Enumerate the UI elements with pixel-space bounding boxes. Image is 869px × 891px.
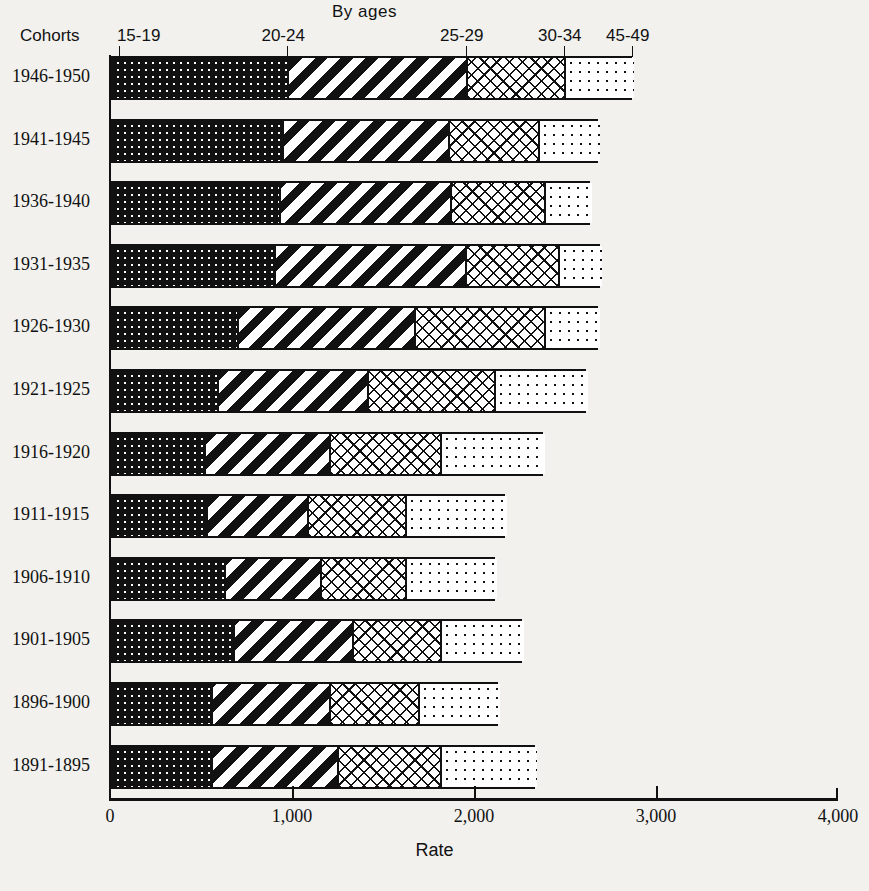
bar-segment-15-19[interactable] (112, 183, 281, 223)
bar-segment-30-34[interactable] (407, 496, 507, 536)
bar-row: 1911-1915 (0, 494, 869, 538)
cohort-label-1911-1915: 1911-1915 (12, 504, 89, 525)
x-tick-label-2000: 2,000 (454, 806, 495, 827)
x-tick-1000 (292, 786, 294, 799)
bar-segment-20-24[interactable] (276, 246, 467, 286)
bar-row: 1891-1895 (0, 745, 869, 789)
bar-segment-25-29[interactable] (467, 246, 560, 286)
bar-segment-15-19[interactable] (112, 559, 226, 599)
bar-segment-30-34[interactable] (442, 621, 524, 661)
bar-row: 1916-1920 (0, 432, 869, 476)
age-group-label-20-24: 20-24 (261, 26, 304, 46)
stacked-bar-1896-1900[interactable] (110, 682, 498, 726)
bar-segment-15-19[interactable] (112, 308, 239, 348)
bar-segment-15-19[interactable] (112, 246, 276, 286)
bar-segment-20-24[interactable] (208, 496, 309, 536)
bar-segment-25-29[interactable] (339, 747, 442, 787)
cohort-label-1946-1950: 1946-1950 (12, 66, 90, 87)
stacked-bar-1926-1930[interactable] (110, 306, 598, 350)
stacked-bar-1931-1935[interactable] (110, 244, 600, 288)
stacked-bar-1911-1915[interactable] (110, 494, 505, 538)
bar-segment-25-29[interactable] (369, 371, 496, 411)
bar-row: 1941-1945 (0, 119, 869, 163)
bar-row: 1896-1900 (0, 682, 869, 726)
stacked-bar-chart: By ages Cohorts 15-1920-2425-2930-3445-4… (0, 0, 869, 891)
bar-segment-20-24[interactable] (213, 684, 331, 724)
bar-segment-20-24[interactable] (284, 121, 450, 161)
x-axis-title: Rate (0, 840, 869, 861)
age-group-label-15-19: 15-19 (117, 26, 160, 46)
cohorts-axis-label: Cohorts (20, 26, 80, 46)
bar-segment-25-29[interactable] (468, 58, 566, 98)
stacked-bar-1921-1925[interactable] (110, 369, 586, 413)
bar-segment-20-24[interactable] (289, 58, 468, 98)
stacked-bar-1941-1945[interactable] (110, 119, 598, 163)
x-axis-right-cap (836, 788, 838, 800)
cohort-label-1916-1920: 1916-1920 (12, 442, 90, 463)
bar-segment-15-19[interactable] (112, 58, 289, 98)
x-tick-3000 (656, 786, 658, 799)
bar-segment-15-19[interactable] (112, 747, 213, 787)
x-tick-label-4000: 4,000 (818, 806, 859, 827)
bar-segment-30-34[interactable] (442, 747, 537, 787)
bar-segment-20-24[interactable] (281, 183, 452, 223)
bar-row: 1936-1940 (0, 181, 869, 225)
cohort-label-1896-1900: 1896-1900 (12, 692, 90, 713)
bar-segment-30-34[interactable] (566, 58, 634, 98)
bar-segment-20-24[interactable] (226, 559, 322, 599)
bar-segment-15-19[interactable] (112, 121, 284, 161)
stacked-bar-1891-1895[interactable] (110, 745, 535, 789)
bar-segment-25-29[interactable] (452, 183, 546, 223)
cohort-label-1921-1925: 1921-1925 (12, 379, 90, 400)
bar-segment-25-29[interactable] (331, 434, 442, 474)
x-axis-left-cap (109, 788, 111, 800)
stacked-bar-1946-1950[interactable] (110, 56, 632, 100)
bar-segment-30-34[interactable] (407, 559, 497, 599)
chart-title-by-ages: By ages (332, 2, 397, 22)
x-tick-label-3000: 3,000 (636, 806, 677, 827)
bar-segment-15-19[interactable] (112, 684, 213, 724)
stacked-bar-1906-1910[interactable] (110, 557, 495, 601)
bar-segment-30-34[interactable] (496, 371, 588, 411)
bar-row: 1946-1950 (0, 56, 869, 100)
cohort-label-1931-1935: 1931-1935 (12, 254, 90, 275)
bar-segment-15-19[interactable] (112, 434, 206, 474)
bar-row: 1926-1930 (0, 306, 869, 350)
stacked-bar-1916-1920[interactable] (110, 432, 543, 476)
bar-segment-20-24[interactable] (213, 747, 339, 787)
bar-segment-30-34[interactable] (560, 246, 602, 286)
bar-segment-20-24[interactable] (239, 308, 416, 348)
bar-segment-25-29[interactable] (309, 496, 407, 536)
bar-segment-20-24[interactable] (206, 434, 331, 474)
cohort-label-1906-1910: 1906-1910 (12, 567, 90, 588)
bar-segment-15-19[interactable] (112, 621, 235, 661)
age-group-label-25-29: 25-29 (440, 26, 483, 46)
cohort-label-1936-1940: 1936-1940 (12, 191, 90, 212)
stacked-bar-1901-1905[interactable] (110, 619, 522, 663)
bar-segment-25-29[interactable] (322, 559, 407, 599)
stacked-bar-1936-1940[interactable] (110, 181, 590, 225)
bar-row: 1906-1910 (0, 557, 869, 601)
bar-segment-30-34[interactable] (546, 308, 600, 348)
bar-row: 1921-1925 (0, 369, 869, 413)
bar-segment-15-19[interactable] (112, 371, 219, 411)
bar-row: 1931-1935 (0, 244, 869, 288)
cohort-label-1941-1945: 1941-1945 (12, 129, 90, 150)
bar-segment-20-24[interactable] (235, 621, 354, 661)
bar-segment-25-29[interactable] (416, 308, 546, 348)
bar-segment-30-34[interactable] (442, 434, 545, 474)
bar-segment-25-29[interactable] (331, 684, 420, 724)
bar-segment-30-34[interactable] (540, 121, 600, 161)
cohort-label-1891-1895: 1891-1895 (12, 755, 90, 776)
bar-segment-25-29[interactable] (354, 621, 442, 661)
bar-segment-20-24[interactable] (219, 371, 369, 411)
x-tick-2000 (474, 786, 476, 799)
bar-segment-15-19[interactable] (112, 496, 208, 536)
age-group-label-30-34: 30-34 (538, 26, 581, 46)
bar-segment-30-34[interactable] (546, 183, 592, 223)
bar-segment-25-29[interactable] (450, 121, 540, 161)
x-tick-label-0: 0 (106, 806, 115, 827)
cohort-label-1901-1905: 1901-1905 (12, 629, 90, 650)
bar-segment-30-34[interactable] (420, 684, 500, 724)
cohort-label-1926-1930: 1926-1930 (12, 316, 90, 337)
